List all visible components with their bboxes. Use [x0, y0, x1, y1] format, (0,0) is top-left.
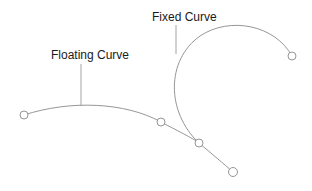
fixed-curve-end-handle[interactable]	[288, 52, 296, 60]
floating-curve	[24, 105, 233, 172]
fixed-curve	[174, 25, 292, 143]
floating-curve-handle-0[interactable]	[20, 111, 28, 119]
floating-curve-handle-2[interactable]	[195, 139, 203, 147]
floating-curve-label: Floating Curve	[51, 48, 129, 62]
curve-diagram	[0, 0, 312, 191]
floating-curve-handle-1[interactable]	[157, 118, 165, 126]
floating-curve-handle-3[interactable]	[229, 168, 238, 177]
fixed-curve-label: Fixed Curve	[152, 10, 217, 24]
